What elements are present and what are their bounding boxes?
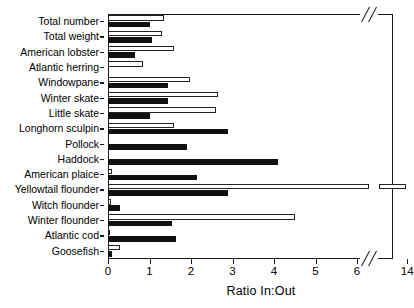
open-bar	[108, 169, 112, 174]
y-axis-tick	[100, 21, 104, 22]
filled-bar	[108, 190, 228, 196]
y-axis-tick	[100, 98, 104, 99]
y-axis-tick	[100, 113, 104, 114]
x-axis-tick	[150, 259, 151, 264]
filled-bar	[108, 22, 150, 28]
y-axis-label-winter-skate: Winter skate	[0, 91, 104, 106]
x-axis-tick-label: 4	[271, 265, 277, 277]
x-axis-tick-label: 5	[312, 265, 318, 277]
bar-row	[108, 182, 393, 197]
y-axis-tick	[100, 67, 104, 68]
y-axis-tick	[100, 144, 104, 145]
y-axis-label-american-lobster: American lobster	[0, 45, 104, 60]
bar-row	[108, 121, 393, 136]
x-axis-tick	[191, 259, 192, 264]
bar-row	[108, 213, 393, 228]
y-axis-label-american-plaice: American plaice	[0, 167, 104, 182]
y-axis-tick	[100, 220, 104, 221]
y-axis-label-haddock: Haddock	[0, 152, 104, 167]
open-bar	[108, 184, 369, 189]
y-axis-tick	[100, 174, 104, 175]
filled-bar	[108, 83, 168, 89]
bar-row	[108, 29, 393, 44]
x-axis-tick	[108, 259, 109, 264]
filled-bar	[108, 236, 176, 242]
x-axis-tick	[274, 259, 275, 264]
open-bar	[108, 15, 164, 20]
x-axis-tick-label: 1	[146, 265, 152, 277]
x-axis-tick	[233, 259, 234, 264]
bar-row	[108, 14, 393, 29]
y-axis-tick	[100, 52, 104, 53]
x-axis-tick	[316, 259, 317, 264]
x-axis-tick-label: 3	[229, 265, 235, 277]
open-bar	[108, 31, 162, 36]
bar-row	[108, 91, 393, 106]
y-axis-label-pollock: Pollock	[0, 137, 104, 152]
x-axis-tick-label: 0	[105, 265, 111, 277]
filled-bar	[108, 221, 172, 227]
filled-bar	[108, 159, 278, 165]
bar-row	[108, 137, 393, 152]
x-axis-tick-labels: 012345614	[0, 265, 414, 281]
x-axis-tick-label: 2	[188, 265, 194, 277]
x-axis-tick	[357, 259, 358, 264]
open-bar	[108, 199, 111, 204]
bar-row	[108, 198, 393, 213]
filled-bar	[108, 113, 150, 119]
ratio-in-out-bar-chart: Total numberTotal weightAmerican lobster…	[0, 0, 414, 308]
y-axis-label-total-weight: Total weight	[0, 29, 104, 44]
open-bar	[108, 46, 174, 51]
open-bar	[108, 77, 190, 82]
y-axis-category-labels: Total numberTotal weightAmerican lobster…	[0, 14, 104, 259]
y-axis-tick	[100, 36, 104, 37]
y-axis-label-windowpane: Windowpane	[0, 75, 104, 90]
x-axis-title: Ratio In:Out	[0, 284, 414, 298]
filled-bar	[108, 144, 187, 150]
y-axis-tick	[100, 82, 104, 83]
y-axis-tick	[100, 128, 104, 129]
y-axis-tick	[100, 189, 104, 190]
y-axis-label-atlantic-cod: Atlantic cod	[0, 228, 104, 243]
open-bar-segment-after-break	[379, 184, 406, 189]
open-bar	[108, 230, 110, 235]
x-axis-tick	[407, 259, 408, 264]
filled-bar	[108, 251, 112, 257]
bar-row	[108, 75, 393, 90]
y-axis-tick	[100, 159, 104, 160]
y-axis-label-witch-flounder: Witch flounder	[0, 198, 104, 213]
filled-bar	[108, 205, 120, 211]
open-bar	[108, 92, 218, 97]
filled-bar	[108, 98, 168, 104]
bar-row	[108, 152, 393, 167]
bars-layer	[108, 14, 393, 259]
bar-row	[108, 167, 393, 182]
y-axis-label-total-number: Total number	[0, 14, 104, 29]
bar-row	[108, 45, 393, 60]
bar-row	[108, 228, 393, 243]
x-axis-title-text: Ratio In:Out	[118, 284, 295, 298]
filled-bar	[108, 175, 197, 181]
open-bar	[108, 245, 120, 250]
y-axis-label-little-skate: Little skate	[0, 106, 104, 121]
y-axis-tick	[100, 251, 104, 252]
y-axis-label-goosefish: Goosefish	[0, 244, 104, 259]
filled-bar	[108, 52, 135, 58]
open-bar	[108, 107, 216, 112]
y-axis-label-yellowtail-flounder: Yellowtail flounder	[0, 182, 104, 197]
open-bar	[108, 61, 143, 66]
y-axis-label-atlantic-herring: Atlantic herring	[0, 60, 104, 75]
y-axis-tick	[100, 205, 104, 206]
bar-row	[108, 106, 393, 121]
y-axis-tick	[100, 235, 104, 236]
bar-row	[108, 60, 393, 75]
x-axis-tick-label: 6	[354, 265, 360, 277]
filled-bar	[108, 37, 152, 43]
y-axis-label-longhorn-sculpin: Longhorn sculpin	[0, 121, 104, 136]
y-axis-label-winter-flounder: Winter flounder	[0, 213, 104, 228]
bar-row	[108, 244, 393, 259]
filled-bar	[108, 129, 228, 135]
x-axis-tick-label: 14	[401, 265, 414, 277]
open-bar	[108, 123, 174, 128]
open-bar	[108, 214, 295, 219]
